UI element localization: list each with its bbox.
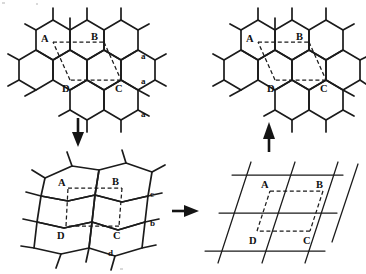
unit-cell-ABCD bbox=[257, 191, 323, 231]
vertex-label-D: D bbox=[57, 230, 65, 241]
arrow-right-mid bbox=[172, 205, 199, 217]
vertex-label-A: A bbox=[58, 177, 66, 188]
scan-speck bbox=[36, 3, 38, 5]
edge-label-a-1: a bbox=[141, 51, 146, 61]
honeycomb-stubs bbox=[213, 8, 366, 132]
vertex-label-C: C bbox=[115, 83, 123, 94]
edge-label-a-3: a bbox=[141, 109, 146, 119]
panel-oblique-lattice: A B C D bbox=[205, 162, 358, 263]
honeycomb-edges bbox=[19, 20, 155, 120]
vertex-label-D: D bbox=[249, 235, 257, 246]
honeycomb-edges bbox=[34, 163, 152, 256]
vertex-label-D: D bbox=[267, 83, 275, 94]
vertex-label-B: B bbox=[296, 31, 303, 42]
arrow-up-right bbox=[263, 122, 275, 152]
vertex-label-B: B bbox=[91, 31, 98, 42]
edge-label-d: d bbox=[108, 248, 113, 258]
lattice-diagram: A B C D a a a bbox=[0, 0, 366, 274]
edge-label-b: b bbox=[150, 218, 155, 228]
vertex-label-A: A bbox=[41, 33, 49, 44]
vertex-label-B: B bbox=[112, 176, 119, 187]
vertex-label-C: C bbox=[113, 230, 121, 241]
panel-honeycomb-regular: A B C D a a a bbox=[8, 8, 166, 132]
vertex-label-D: D bbox=[62, 83, 70, 94]
vertex-label-A: A bbox=[261, 179, 269, 190]
arrow-down-left bbox=[72, 118, 84, 147]
edge-label-c: c bbox=[150, 189, 154, 199]
vertex-label-C: C bbox=[320, 83, 328, 94]
vertex-label-A: A bbox=[246, 33, 254, 44]
vertex-label-B: B bbox=[316, 179, 323, 190]
edge-label-a-2: a bbox=[141, 76, 146, 86]
vertex-label-C: C bbox=[303, 235, 311, 246]
figure-root: A B C D a a a bbox=[0, 0, 366, 274]
scan-speck bbox=[120, 268, 123, 270]
honeycomb-edges bbox=[224, 20, 360, 120]
panel-honeycomb-distorted: A B C D c b d bbox=[21, 150, 165, 270]
scan-speck bbox=[2, 2, 5, 4]
panel-honeycomb-regular-copy: A B C D bbox=[213, 8, 366, 132]
